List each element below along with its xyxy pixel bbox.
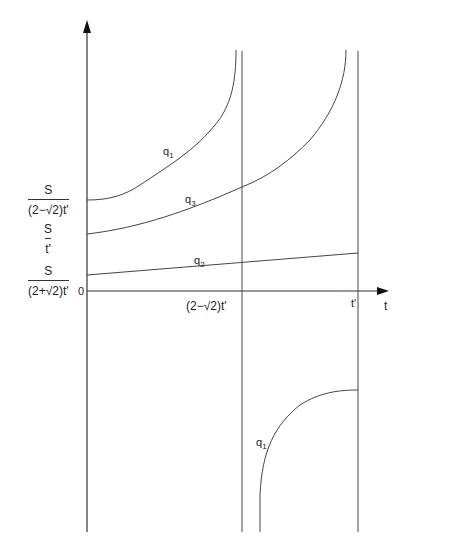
x-axis-arrow-icon xyxy=(377,287,389,295)
origin-label: 0 xyxy=(78,286,84,297)
y-tick-s-over-2-minus-root2-t: S (2−√2)t' xyxy=(28,183,69,217)
x-tick-2-minus-root2-t: (2−√2)t' xyxy=(186,300,227,312)
label-q1-upper: q1 xyxy=(163,146,174,160)
label-q2: q2 xyxy=(194,255,205,269)
label-q1-lower: q1 xyxy=(256,437,267,451)
x-tick-t-prime: t' xyxy=(351,298,356,309)
curve-q2 xyxy=(87,253,358,275)
diagram-canvas xyxy=(0,0,465,559)
curve-q1-upper xyxy=(87,50,236,200)
y-tick-s-over-t: S t' xyxy=(44,222,52,256)
curve-q3 xyxy=(87,50,346,234)
label-q3: q3 xyxy=(185,194,196,208)
y-tick-s-over-2-plus-root2-t: S (2+√2)t' xyxy=(28,264,69,298)
x-axis-label: t xyxy=(384,300,387,312)
y-axis-arrow-icon xyxy=(83,20,91,33)
curve-q1-lower xyxy=(260,390,358,532)
